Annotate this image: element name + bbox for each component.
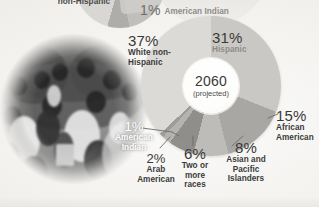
label-white-name-line2: Hispanic xyxy=(128,59,190,67)
label-african-american: 15% African American xyxy=(276,108,319,142)
label-hispanic-pct: 31% xyxy=(212,30,266,45)
label-asian-pacific: 8% Asian and Pacific Islanders xyxy=(218,140,274,183)
label-american-indian-name-line1: American xyxy=(106,134,162,142)
label-arab-name-line2: American xyxy=(133,176,179,184)
label-african-pct: 15% xyxy=(276,108,319,123)
label-american-indian-pct: 1% xyxy=(106,120,162,133)
top-chart-label-non-hispanic: non-Hispanic xyxy=(48,0,120,6)
label-asian-name-line1: Asian and xyxy=(218,156,274,164)
label-arab-name-line1: Arab xyxy=(133,166,179,174)
label-asian-name-line2: Pacific xyxy=(218,166,274,174)
label-two-name-line1: Two or xyxy=(174,162,216,170)
label-white-name-line1: White non- xyxy=(128,49,190,57)
top-chart-american-indian-name: American Indian xyxy=(164,7,228,16)
label-african-name-line2: American xyxy=(276,134,319,142)
label-two-name-line2: more xyxy=(174,172,216,180)
label-hispanic-name: Hispanic xyxy=(212,46,266,54)
label-arab-american: 2% Arab American xyxy=(133,152,179,184)
label-arab-pct: 2% xyxy=(133,152,179,165)
label-african-name-line1: African xyxy=(276,124,319,132)
top-chart-label-american-indian: 1%American Indian xyxy=(140,1,280,17)
label-two-name-line3: races xyxy=(174,181,216,189)
pie-center-hub: 2060 (projected) xyxy=(183,58,239,114)
infographic-canvas: non-Hispanic 1%American Indian xyxy=(0,0,319,207)
label-american-indian: 1% American Indian xyxy=(106,120,162,152)
label-asian-pct: 8% xyxy=(218,140,274,155)
label-asian-name-line3: Islanders xyxy=(218,175,274,183)
label-two-or-more-races: 6% Two or more races xyxy=(174,146,216,189)
bottom-edge-shade xyxy=(0,197,319,207)
label-white-pct: 37% xyxy=(128,33,190,48)
pie-center-projected-note: (projected) xyxy=(193,90,229,98)
label-hispanic: 31% Hispanic xyxy=(212,30,266,55)
label-american-indian-name-line2: Indian xyxy=(106,144,162,152)
label-two-pct: 6% xyxy=(174,146,216,161)
label-white-non-hispanic: 37% White non- Hispanic xyxy=(128,33,190,67)
top-chart-non-hispanic-text: non-Hispanic xyxy=(48,0,120,6)
pie-center-year: 2060 xyxy=(195,74,227,88)
